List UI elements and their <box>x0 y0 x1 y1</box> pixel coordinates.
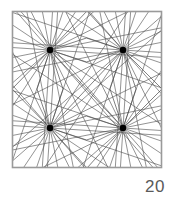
pattern-line <box>123 128 131 168</box>
pattern-line <box>50 50 108 168</box>
pattern-line <box>12 121 123 128</box>
figure-number-label: 20 <box>145 178 165 196</box>
pattern-line <box>42 11 50 50</box>
pattern-lines-group <box>12 11 162 168</box>
starburst-node-top-right <box>120 47 126 53</box>
starburst-node-top-left <box>47 47 53 53</box>
pattern-line <box>123 89 162 128</box>
pattern-line <box>50 73 162 128</box>
figure-container: 20 <box>0 0 172 197</box>
pattern-line <box>27 11 50 128</box>
pattern-line <box>123 120 162 128</box>
pattern-line <box>12 50 50 58</box>
pattern-line <box>123 50 162 129</box>
pattern-line <box>12 51 50 128</box>
starburst-node-bottom-right <box>120 125 126 131</box>
geometric-pattern-svg <box>0 0 172 197</box>
pattern-line <box>123 42 162 50</box>
pattern-line <box>115 11 123 50</box>
starburst-node-bottom-left <box>47 125 53 131</box>
pattern-line <box>12 50 50 89</box>
